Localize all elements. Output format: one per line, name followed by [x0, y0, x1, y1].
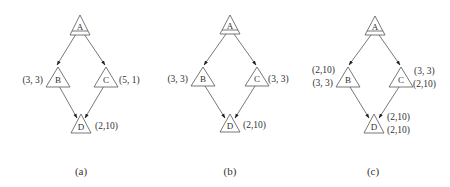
panel-a: A B C D (3, 3) (5, 1) (2,10) (a) — [22, 15, 139, 178]
node-label: C — [398, 75, 404, 85]
node-a: A — [365, 16, 385, 35]
edge-b-to-d — [205, 86, 225, 118]
node-a: A — [220, 15, 240, 34]
payoff-label-c: (5, 1) — [119, 75, 140, 86]
panel-b: A B C D (3, 3) (3, 3) (2,10) (b) — [167, 15, 288, 178]
payoff-label-b: (3, 3) — [167, 74, 188, 85]
panel-caption: (a) — [75, 165, 88, 178]
node-c: C — [389, 67, 413, 87]
edge-a-to-c — [234, 34, 256, 65]
node-label: D — [78, 122, 85, 132]
node-label: D — [371, 122, 378, 132]
payoff-label-b: (3, 3) — [22, 75, 43, 86]
payoff-label-d: (2,10) — [95, 121, 118, 132]
edge-c-to-d — [85, 86, 104, 118]
node-d: D — [220, 114, 240, 132]
panel-c: A B C D (2,10) (3, 3) (3, 3) (2,10) (2,1… — [312, 16, 436, 178]
edge-a-to-b — [204, 34, 226, 65]
node-label: B — [345, 75, 351, 85]
node-d: D — [364, 114, 384, 133]
node-c: C — [245, 67, 269, 86]
payoff-label-d-bottom: (2,10) — [387, 125, 410, 136]
edge-a-to-b — [57, 34, 76, 65]
node-label: C — [103, 75, 109, 85]
node-label: A — [372, 22, 379, 32]
edge-b-to-d — [59, 86, 77, 118]
node-b: B — [336, 67, 360, 87]
panel-caption: (b) — [224, 165, 237, 178]
payoff-label-b-bottom: (3, 3) — [312, 78, 333, 89]
payoff-label-c: (3, 3) — [268, 74, 289, 85]
edge-a-to-c — [379, 35, 400, 65]
node-label: B — [55, 75, 61, 85]
edge-c-to-d — [235, 86, 255, 118]
node-d: D — [71, 114, 91, 133]
edge-b-to-d — [350, 87, 369, 118]
node-c: C — [94, 67, 118, 87]
node-label: A — [227, 21, 234, 31]
payoff-label-c-bottom: (2,10) — [413, 79, 436, 90]
payoff-label-b-top: (2,10) — [312, 65, 335, 76]
edge-a-to-c — [84, 34, 105, 65]
node-label: A — [77, 22, 84, 32]
node-b: B — [191, 67, 215, 86]
node-label: B — [200, 74, 206, 84]
node-label: C — [254, 74, 260, 84]
diagram-canvas: A B C D (3, 3) (5, 1) (2,10) (a) A — [0, 0, 450, 187]
payoff-label-d: (2,10) — [243, 120, 266, 131]
node-b: B — [46, 67, 70, 87]
node-a: A — [70, 15, 90, 35]
payoff-label-c-top: (3, 3) — [414, 66, 435, 77]
node-label: D — [227, 121, 234, 131]
panel-caption: (c) — [367, 165, 380, 178]
payoff-label-d-top: (2,10) — [387, 112, 410, 123]
edge-a-to-b — [349, 35, 371, 65]
